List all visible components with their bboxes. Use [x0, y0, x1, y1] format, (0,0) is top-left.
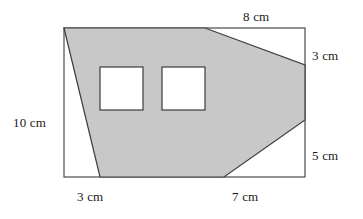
figure-canvas — [0, 0, 363, 219]
dimension-label-bottom-right: 7 cm — [232, 190, 258, 203]
dimension-label-bottom-left: 3 cm — [77, 190, 103, 203]
dimension-label-top: 8 cm — [243, 10, 269, 23]
square-hole-right — [162, 67, 205, 110]
geometry-figure: 8 cm 3 cm 5 cm 10 cm 3 cm 7 cm — [0, 0, 363, 219]
dimension-label-right-lower: 5 cm — [312, 149, 338, 162]
square-hole-left — [100, 67, 143, 110]
dimension-label-right-upper: 3 cm — [312, 49, 338, 62]
dimension-label-left: 10 cm — [13, 116, 46, 129]
